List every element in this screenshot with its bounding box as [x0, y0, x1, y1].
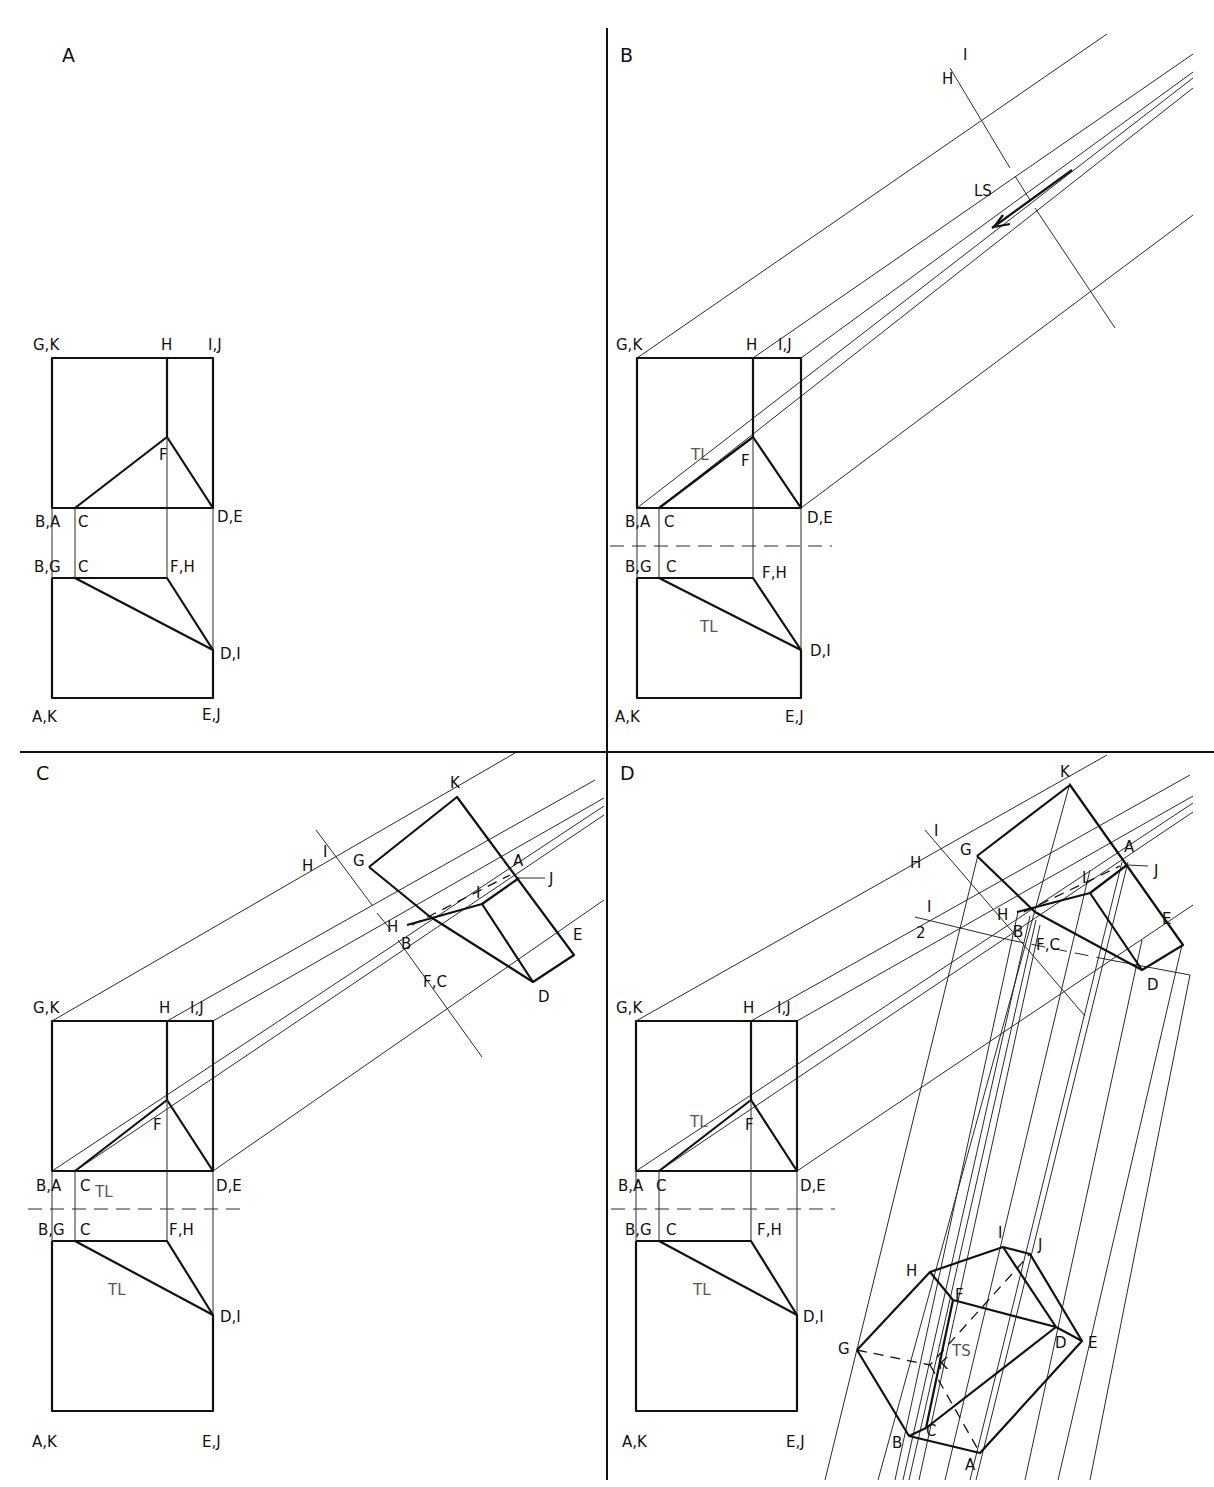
svg-text:G,K: G,K: [616, 999, 643, 1017]
svg-text:K: K: [1060, 763, 1071, 781]
svg-text:C: C: [656, 1177, 666, 1195]
svg-text:J: J: [1153, 862, 1158, 880]
svg-text:B: B: [1013, 923, 1023, 941]
svg-text:D,I: D,I: [220, 1308, 241, 1326]
line-of-sight-arrow: [992, 170, 1072, 228]
svg-text:B: B: [892, 1434, 902, 1452]
svg-text:F: F: [745, 1116, 754, 1134]
svg-text:I: I: [927, 898, 931, 916]
svg-text:I,J: I,J: [208, 336, 222, 354]
svg-text:TL: TL: [699, 618, 718, 636]
svg-text:TL: TL: [690, 446, 709, 464]
svg-text:F: F: [153, 1116, 162, 1134]
svg-text:I: I: [963, 46, 967, 64]
svg-text:G: G: [838, 1340, 850, 1358]
top-view-outline: [52, 358, 213, 508]
panel-label-a: A: [62, 44, 75, 66]
svg-text:2: 2: [916, 924, 926, 942]
svg-text:J: J: [548, 870, 553, 888]
svg-text:J: J: [1037, 1236, 1042, 1254]
svg-text:F: F: [159, 446, 168, 464]
svg-text:H: H: [159, 999, 170, 1017]
svg-text:F,H: F,H: [757, 1221, 782, 1239]
svg-text:LS: LS: [974, 182, 992, 200]
panel-label-c: C: [36, 762, 49, 784]
panel-d: D I H I 2 K G: [611, 755, 1193, 1480]
svg-text:B,G: B,G: [625, 558, 652, 576]
svg-text:D,I: D,I: [220, 645, 241, 663]
svg-text:I: I: [323, 843, 327, 861]
svg-text:F,H: F,H: [169, 1221, 194, 1239]
svg-text:I: I: [998, 1224, 1002, 1242]
panel-label-b: B: [620, 44, 633, 66]
svg-text:K: K: [938, 1355, 949, 1373]
svg-text:F,H: F,H: [762, 564, 787, 582]
svg-text:D,I: D,I: [810, 642, 831, 660]
svg-text:I,J: I,J: [778, 336, 792, 354]
svg-text:D: D: [1055, 1334, 1067, 1352]
svg-text:H: H: [746, 336, 757, 354]
svg-text:F: F: [741, 452, 750, 470]
svg-text:A,K: A,K: [615, 708, 641, 726]
svg-text:B,G: B,G: [38, 1221, 65, 1239]
svg-text:H: H: [161, 336, 172, 354]
svg-text:G,K: G,K: [616, 336, 643, 354]
svg-text:H: H: [997, 906, 1008, 924]
svg-text:E,J: E,J: [785, 708, 804, 726]
svg-text:A,K: A,K: [32, 708, 58, 726]
svg-text:C: C: [80, 1221, 90, 1239]
svg-text:H: H: [743, 999, 754, 1017]
svg-text:B,A: B,A: [35, 513, 61, 531]
svg-text:F,C: F,C: [423, 973, 447, 991]
svg-text:H: H: [942, 70, 953, 88]
svg-text:C: C: [78, 558, 88, 576]
svg-text:TS: TS: [951, 1342, 971, 1360]
svg-text:I: I: [1082, 869, 1086, 887]
svg-text:A,K: A,K: [622, 1433, 648, 1451]
svg-text:G,K: G,K: [33, 336, 60, 354]
svg-text:F,H: F,H: [170, 558, 195, 576]
svg-text:H: H: [387, 918, 398, 936]
svg-text:H: H: [906, 1262, 917, 1280]
svg-text:D,E: D,E: [807, 509, 833, 527]
panel-label-d: D: [620, 762, 635, 784]
panel-a: A G,K H I,J F B,A C D,E B,G C F,H D,I A,…: [32, 44, 243, 726]
svg-text:C: C: [666, 558, 676, 576]
svg-text:D,I: D,I: [803, 1308, 824, 1326]
svg-text:B: B: [401, 935, 411, 953]
svg-text:B,A: B,A: [36, 1177, 62, 1195]
svg-text:B,A: B,A: [625, 513, 651, 531]
svg-text:E: E: [573, 926, 582, 944]
svg-text:B,A: B,A: [618, 1177, 644, 1195]
svg-text:A: A: [1124, 838, 1135, 856]
svg-text:A: A: [965, 1456, 976, 1474]
svg-text:A: A: [513, 852, 524, 870]
svg-text:E: E: [1162, 910, 1171, 928]
true-shape-view: I J H F G TS K D E C B A: [838, 1224, 1097, 1474]
svg-text:E,J: E,J: [202, 1433, 221, 1451]
svg-text:D: D: [1147, 976, 1159, 994]
svg-text:I: I: [476, 884, 480, 902]
svg-text:TL: TL: [94, 1183, 113, 1201]
svg-text:I: I: [934, 822, 938, 840]
svg-text:F: F: [955, 1286, 964, 1304]
svg-text:E: E: [1088, 1334, 1097, 1352]
svg-text:A,K: A,K: [32, 1433, 58, 1451]
svg-text:C: C: [78, 513, 88, 531]
svg-text:C: C: [664, 513, 674, 531]
svg-text:G,K: G,K: [33, 999, 60, 1017]
panel-c: C I H K G A J I H B E F,C D: [28, 753, 604, 1451]
svg-text:I,J: I,J: [777, 999, 791, 1017]
svg-text:TL: TL: [689, 1113, 708, 1131]
svg-text:TL: TL: [692, 1281, 711, 1299]
svg-text:D,E: D,E: [216, 1177, 242, 1195]
svg-text:B,G: B,G: [34, 558, 61, 576]
panel-b: B I H LS G,K H I,J TL F B,A C: [610, 34, 1193, 726]
svg-text:D: D: [538, 988, 550, 1006]
svg-text:D,E: D,E: [217, 508, 243, 526]
svg-text:E,J: E,J: [786, 1433, 805, 1451]
svg-text:C: C: [666, 1221, 676, 1239]
svg-text:B,G: B,G: [625, 1221, 652, 1239]
svg-text:F,C: F,C: [1036, 936, 1060, 954]
svg-text:G: G: [353, 852, 365, 870]
